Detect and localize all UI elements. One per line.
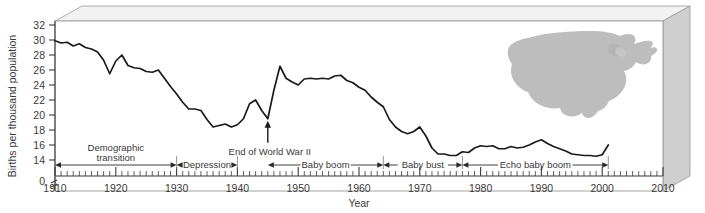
x-tick-label: 1910	[43, 182, 67, 194]
y-axis-title: Births per thousand population	[6, 35, 18, 178]
x-tick-label: 2010	[651, 182, 675, 194]
y-tick-label: 30	[33, 34, 45, 46]
y-tick-label: 26	[33, 64, 45, 76]
frame-top-face	[55, 6, 690, 21]
y-tick-label: 14	[33, 154, 45, 166]
x-tick-label: 2000	[591, 182, 615, 194]
y-tick-marks	[49, 25, 55, 160]
x-tick-label: 1980	[469, 182, 493, 194]
frame-right-face	[663, 6, 690, 191]
era-span-label: Baby bust	[402, 159, 445, 170]
era-span-label: Baby boom	[302, 159, 350, 170]
x-tick-label: 1940	[226, 182, 250, 194]
x-tick-label: 1990	[530, 182, 554, 194]
y-tick-label: 20	[33, 109, 45, 121]
annotation-label: End of World War II	[229, 146, 311, 157]
y-tick-label: 18	[33, 124, 45, 136]
x-axis-title: Year	[348, 197, 370, 209]
chart-figure: 32 30 28 26 24 22 20 18 16 14 0 Births p…	[0, 0, 705, 213]
y-tick-label: 24	[33, 79, 45, 91]
x-tick-label: 1970	[408, 182, 432, 194]
x-tick-label: 1960	[347, 182, 371, 194]
y-tick-label: 22	[33, 94, 45, 106]
x-tick-label: 1950	[287, 182, 311, 194]
y-tick-label: 16	[33, 139, 45, 151]
x-tick-label: 1920	[104, 182, 128, 194]
era-span-label: Depression	[183, 159, 231, 170]
era-span-label: transition	[97, 152, 136, 163]
y-tick-label: 28	[33, 49, 45, 61]
birth-rate-line-chart: 32 30 28 26 24 22 20 18 16 14 0 Births p…	[0, 0, 705, 213]
era-span-label: Echo baby boom	[500, 159, 571, 170]
y-tick-label: 32	[33, 19, 45, 31]
y-axis: 32 30 28 26 24 22 20 18 16 14 0 Births p…	[6, 19, 57, 191]
x-tick-label: 1930	[165, 182, 189, 194]
